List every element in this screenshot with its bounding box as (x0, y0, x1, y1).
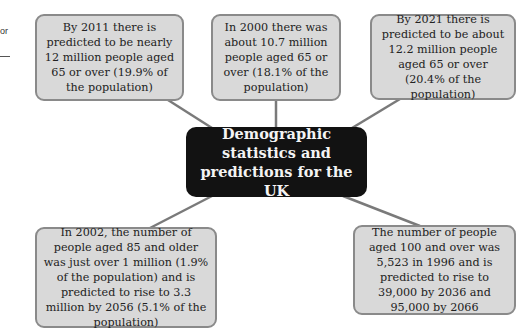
node-text: The number of people aged 100 and over w… (361, 225, 508, 315)
connector-bottom-right (343, 196, 420, 226)
node-text: In 2002, the number of people aged 85 an… (43, 225, 209, 329)
central-topic-title: Demographic statistics and predictions f… (192, 124, 361, 200)
node-top-left: By 2011 there is predicted to be nearly … (35, 14, 184, 101)
node-text: By 2011 there is predicted to be nearly … (43, 20, 176, 95)
node-bottom-left: In 2002, the number of people aged 85 an… (35, 227, 217, 328)
node-top-middle: In 2000 there was about 10.7 million peo… (211, 14, 341, 101)
central-topic: Demographic statistics and predictions f… (186, 127, 367, 197)
node-top-right: By 2021 there is predicted to be about 1… (370, 14, 516, 100)
connector-bottom-left (150, 196, 212, 228)
node-text: By 2021 there is predicted to be about 1… (378, 12, 508, 102)
node-bottom-right: The number of people aged 100 and over w… (353, 225, 516, 315)
node-text: In 2000 there was about 10.7 million peo… (219, 20, 333, 95)
